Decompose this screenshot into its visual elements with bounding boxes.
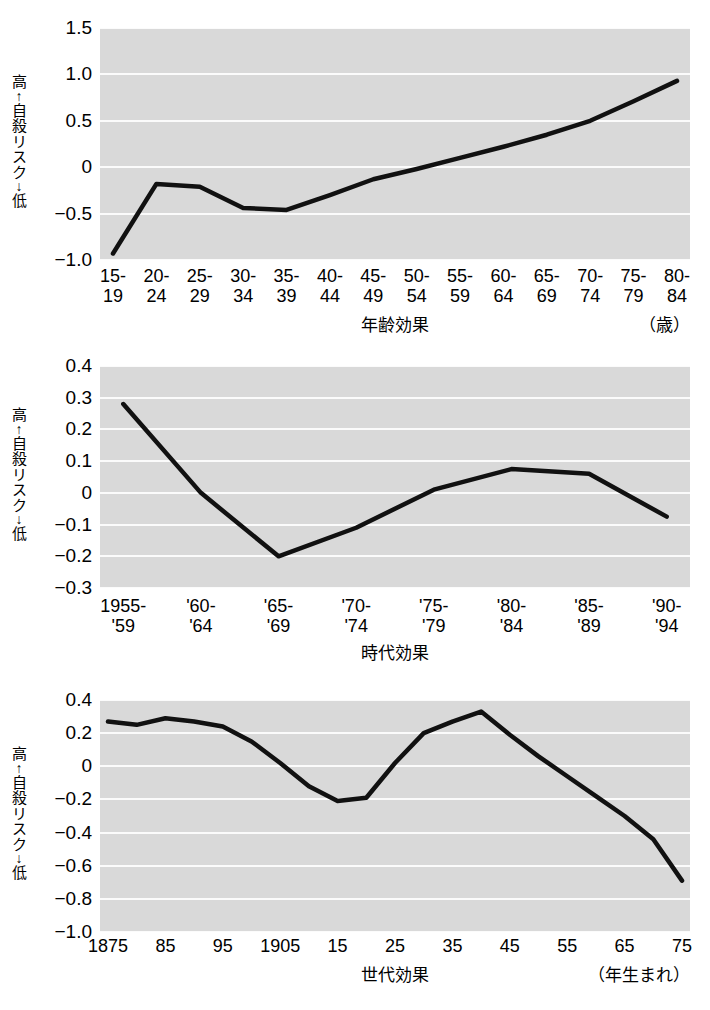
plot-area-period-effect	[100, 366, 690, 588]
chart-panel-age-effect: 高↑自殺リスク↓低 1.51.00.50−0.5−1.0 15-1920-242…	[0, 0, 710, 340]
x-axis-tick-label: 75	[647, 936, 710, 956]
chart-panel-period-effect: 高↑自殺リスク↓低 0.40.30.20.10−0.1−0.2−0.3 1955…	[0, 340, 710, 670]
y-axis-tick-labels: 1.51.00.50−0.5−1.0	[0, 0, 92, 340]
y-axis-tick-label: 0.2	[66, 723, 92, 742]
data-series-line	[100, 28, 690, 260]
data-series-line	[100, 366, 690, 588]
y-axis-tick-label: −0.4	[54, 823, 92, 842]
y-axis-tick-label: 0.2	[66, 419, 92, 438]
figure-root: 高↑自殺リスク↓低 1.51.00.50−0.5−1.0 15-1920-242…	[0, 0, 710, 1010]
y-axis-tick-label: −0.8	[54, 889, 92, 908]
x-axis-unit-label: （歳）	[540, 316, 690, 335]
y-axis-tick-label: 0	[81, 157, 92, 176]
x-axis-title: 時代効果	[295, 644, 495, 663]
y-axis-tick-label: 1.0	[66, 64, 92, 83]
y-axis-tick-labels: 0.40.30.20.10−0.1−0.2−0.3	[0, 340, 92, 670]
y-axis-tick-label: 1.5	[66, 18, 92, 37]
y-axis-tick-labels: 0.40.20−0.2−0.4−0.6−0.8−1.0	[0, 670, 92, 1010]
y-axis-tick-label: −0.6	[54, 856, 92, 875]
x-axis-tick-label: '90-'94	[637, 596, 697, 636]
x-axis-title: 年齢効果	[295, 316, 495, 335]
x-axis-tick-label: '80-'84	[481, 596, 541, 636]
y-axis-tick-label: −0.3	[54, 578, 92, 597]
y-axis-tick-label: 0.3	[66, 388, 92, 407]
y-axis-tick-label: 0	[81, 483, 92, 502]
y-axis-tick-label: 0.4	[66, 356, 92, 375]
x-axis-tick-label: '60-'64	[171, 596, 231, 636]
y-axis-tick-label: −0.1	[54, 515, 92, 534]
x-axis-tick-label: 80-84	[647, 266, 707, 306]
x-axis-tick-label: 1955-'59	[93, 596, 153, 636]
plot-area-cohort-effect	[100, 700, 690, 932]
y-axis-tick-label: 0	[81, 756, 92, 775]
x-axis-tick-label: '65-'69	[249, 596, 309, 636]
x-axis-tick-label: '75-'79	[404, 596, 464, 636]
data-series-line	[100, 700, 690, 932]
x-axis-tick-label: '85-'89	[559, 596, 619, 636]
y-axis-tick-label: 0.4	[66, 690, 92, 709]
x-axis-unit-label: （年生まれ）	[540, 966, 690, 985]
x-axis-title: 世代効果	[295, 966, 495, 985]
y-axis-tick-label: −0.5	[54, 204, 92, 223]
y-axis-tick-label: 0.1	[66, 451, 92, 470]
x-axis-tick-label: '70-'74	[326, 596, 386, 636]
y-axis-tick-label: 0.5	[66, 111, 92, 130]
chart-panel-cohort-effect: 高↑自殺リスク↓低 0.40.20−0.2−0.4−0.6−0.8−1.0 18…	[0, 670, 710, 1010]
plot-area-age-effect	[100, 28, 690, 260]
y-axis-tick-label: −0.2	[54, 789, 92, 808]
y-axis-tick-label: −0.2	[54, 546, 92, 565]
